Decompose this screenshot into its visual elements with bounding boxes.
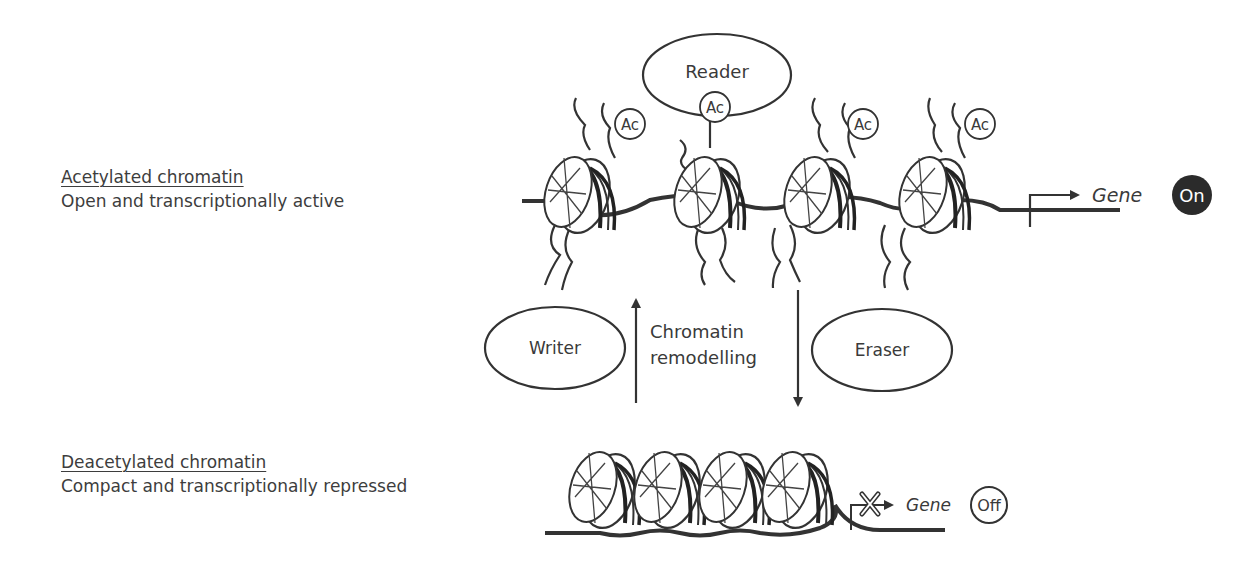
chromatin-diagram: Reader Ac Ac Ac Ac Gene On Writer Eraser… [0, 0, 1257, 579]
acetyl-mark: Ac [965, 109, 995, 139]
on-badge-label: On [1179, 185, 1205, 206]
deacetylated-chromatin-fiber [545, 446, 945, 536]
gene-off-label: Gene [906, 495, 951, 515]
chromatin-remodelling-label: Chromatin remodelling [650, 321, 757, 368]
acetyl-mark: Ac [615, 109, 645, 139]
off-badge-label: Off [977, 496, 1002, 515]
nucleosome-icon [776, 151, 859, 240]
gene-on-label: Gene [1092, 184, 1142, 206]
acetyl-mark: Ac [700, 92, 730, 122]
nucleosome-icon [891, 151, 974, 240]
nucleosome-icon [561, 446, 644, 535]
acetyl-mark: Ac [848, 109, 878, 139]
eraser-label: Eraser [855, 340, 909, 360]
writer-protein: Writer [485, 307, 625, 389]
gene-on-indicator: Gene On [1030, 175, 1212, 227]
ac-label: Ac [621, 116, 639, 134]
reader-label: Reader [685, 61, 749, 82]
writer-label: Writer [529, 338, 581, 358]
ac-label: Ac [706, 99, 724, 117]
gene-off-indicator: Gene Off [851, 487, 1007, 530]
nucleosome-icon [666, 151, 749, 240]
ac-label: Ac [971, 116, 989, 134]
eraser-protein: Eraser [812, 309, 952, 391]
ac-label: Ac [854, 116, 872, 134]
nucleosome-icon [754, 446, 837, 535]
nucleosome-icon [536, 151, 619, 240]
process-line1: Chromatin [650, 321, 744, 342]
process-line2: remodelling [650, 347, 757, 368]
